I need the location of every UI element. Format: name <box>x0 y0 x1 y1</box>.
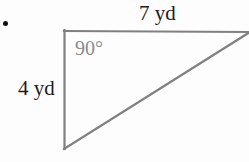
right-angle-label: 90° <box>75 38 103 58</box>
side-label-top: 7 yd <box>139 3 176 24</box>
side-label-left: 4 yd <box>18 78 55 99</box>
triangle-top-side-line <box>64 31 249 32</box>
triangle-figure: 7 yd 4 yd 90° <box>0 0 249 162</box>
